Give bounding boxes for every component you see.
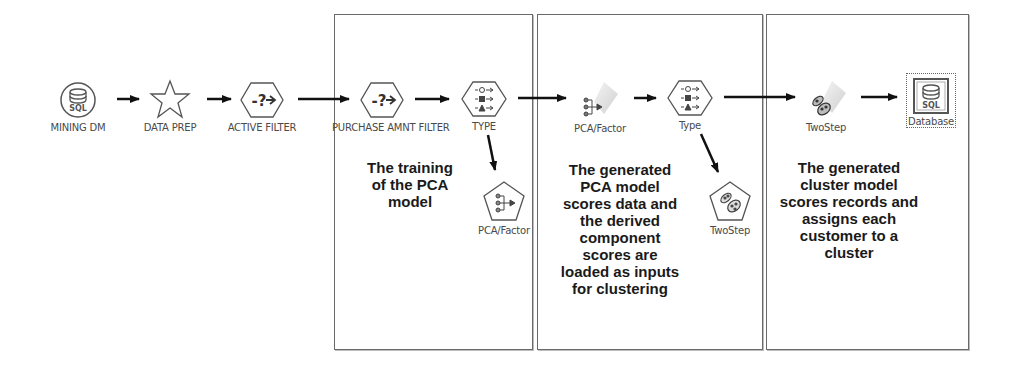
svg-text:SQL: SQL bbox=[922, 101, 940, 110]
node-label: DATA PREP bbox=[130, 122, 210, 133]
pca-pentagon-icon bbox=[482, 180, 526, 222]
node-label: Type bbox=[650, 120, 730, 131]
training-note: The training of the PCA model bbox=[340, 159, 480, 210]
edge-type-to-twostepbuilder bbox=[701, 134, 718, 172]
selection-outline: SQL Database bbox=[906, 73, 956, 128]
note-line: The generated bbox=[540, 161, 700, 178]
node-label: ACTIVE FILTER bbox=[222, 122, 302, 133]
edge-type-to-pcabuilder bbox=[488, 135, 495, 170]
node-data-prep[interactable]: DATA PREP bbox=[130, 79, 210, 133]
note-line: the derived bbox=[540, 212, 700, 229]
select-hexagon-icon: -? bbox=[360, 81, 404, 119]
select-hexagon-icon: -? bbox=[240, 81, 284, 119]
node-label: TwoStep bbox=[786, 122, 866, 133]
note-line: customer to a bbox=[764, 227, 934, 244]
note-line: PCA model bbox=[540, 178, 700, 195]
type-hexagon-icon bbox=[667, 79, 713, 117]
note-line: scores records and bbox=[764, 193, 934, 210]
note-line: The generated bbox=[764, 159, 934, 176]
node-type-upper[interactable]: TYPE bbox=[444, 80, 524, 132]
node-mining-dm[interactable]: SQL MINING DM bbox=[38, 81, 118, 133]
node-type-lower[interactable]: Type bbox=[650, 79, 730, 131]
note-line: of the PCA bbox=[340, 176, 480, 193]
scoring-note: The generated PCA model scores data and … bbox=[540, 161, 700, 297]
note-line: scores are bbox=[540, 246, 700, 263]
note-line: for clustering bbox=[540, 280, 700, 297]
sql-database-circle-icon: SQL bbox=[59, 81, 97, 119]
stream-canvas: SQL MINING DM DATA PREP -? ACTIVE FILTER… bbox=[0, 0, 1018, 367]
star-supernode-icon bbox=[149, 79, 191, 119]
note-line: component bbox=[540, 229, 700, 246]
node-label: MINING DM bbox=[38, 122, 118, 133]
pca-nugget-icon bbox=[574, 80, 626, 120]
note-line: loaded as inputs bbox=[540, 263, 700, 280]
note-line: scores data and bbox=[540, 195, 700, 212]
node-active-filter[interactable]: -? ACTIVE FILTER bbox=[222, 81, 302, 133]
twostep-nugget-icon bbox=[800, 79, 852, 119]
node-database-export[interactable]: SQL Database bbox=[891, 73, 971, 129]
svg-text:-?: -? bbox=[252, 92, 267, 110]
svg-text:SQL: SQL bbox=[69, 104, 87, 113]
twostep-pentagon-icon bbox=[708, 180, 752, 222]
node-label: PCA/Factor bbox=[560, 123, 640, 134]
node-twostep-nugget[interactable]: TwoStep bbox=[786, 79, 866, 133]
note-line: The training bbox=[340, 159, 480, 176]
node-label: Database bbox=[908, 116, 954, 127]
note-line: assigns each bbox=[764, 210, 934, 227]
note-line: cluster bbox=[764, 244, 934, 261]
note-line: model bbox=[340, 193, 480, 210]
node-twostep-builder[interactable]: TwoStep bbox=[690, 180, 770, 236]
node-label: PURCHASE AMNT FILTER bbox=[332, 122, 432, 133]
note-line: cluster model bbox=[764, 176, 934, 193]
type-hexagon-icon bbox=[461, 80, 507, 118]
node-label: PCA/Factor bbox=[464, 225, 544, 236]
sql-database-square-icon: SQL bbox=[908, 76, 954, 116]
cluster-note: The generated cluster model scores recor… bbox=[764, 159, 934, 261]
node-label: TwoStep bbox=[690, 225, 770, 236]
node-pca-factor-nugget[interactable]: PCA/Factor bbox=[560, 80, 640, 134]
node-purchase-amnt-filter[interactable]: -? PURCHASE AMNT FILTER bbox=[332, 81, 432, 133]
node-label: TYPE bbox=[444, 121, 524, 132]
svg-text:-?: -? bbox=[372, 92, 387, 110]
